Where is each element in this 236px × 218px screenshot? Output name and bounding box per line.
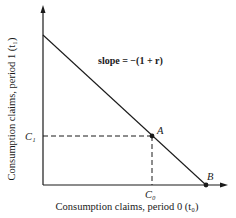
slope-annotation: slope = −(1 + r): [98, 55, 163, 66]
budget-line-diagram: A B C₁ C₀ slope = −(1 + r) Consumption c…: [0, 0, 236, 218]
point-a-marker: [150, 134, 155, 139]
x-axis-label: Consumption claims, period 0 (t₀): [0, 201, 236, 212]
c0-tick-label: C₀: [145, 189, 156, 200]
c1-tick-label: C₁: [25, 131, 36, 142]
y-axis-label-wrapper: Consumption claims, period 1 (t₁): [4, 0, 18, 218]
y-axis-arrow-icon: [41, 5, 46, 13]
point-b-marker: [204, 183, 209, 188]
point-a-label: A: [156, 125, 164, 136]
x-axis-arrow-icon: [220, 183, 228, 188]
point-b-label: B: [207, 171, 214, 182]
diagram-canvas: A B C₁ C₀: [0, 0, 236, 218]
y-axis-label: Consumption claims, period 1 (t₁): [6, 38, 17, 181]
